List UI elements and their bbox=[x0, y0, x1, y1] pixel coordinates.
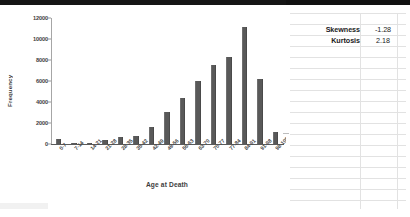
y-tick-mark bbox=[48, 39, 51, 40]
x-label-slot: 14-21 bbox=[82, 146, 97, 174]
x-label-slot: 7-14 bbox=[66, 146, 81, 174]
y-tick-label: 6000 bbox=[14, 78, 48, 84]
statistics-table: Skewness -1.28 Kurtosis 2.18 bbox=[286, 5, 410, 217]
table-row-line bbox=[290, 134, 406, 135]
table-row-line bbox=[290, 123, 406, 124]
y-tick-mark bbox=[48, 18, 51, 19]
table-row-value-skewness: -1.28 bbox=[366, 25, 400, 34]
table-row-line bbox=[290, 200, 406, 201]
bar bbox=[180, 98, 186, 144]
table-row-line bbox=[290, 13, 406, 14]
bar-slot bbox=[221, 18, 236, 144]
y-tick-mark bbox=[48, 144, 51, 145]
y-tick-label: 2000 bbox=[14, 120, 48, 126]
bar-slot bbox=[113, 18, 128, 144]
table-row-line bbox=[290, 57, 406, 58]
y-tick-mark bbox=[48, 102, 51, 103]
bar-slot bbox=[268, 18, 283, 144]
bar-slot bbox=[97, 18, 112, 144]
y-tick-mark bbox=[48, 81, 51, 82]
x-label-slot: 21-28 bbox=[97, 146, 112, 174]
bar bbox=[195, 81, 201, 144]
table-row-line bbox=[290, 46, 406, 47]
bar bbox=[149, 127, 155, 144]
bar-slot bbox=[128, 18, 143, 144]
x-label-slot: 98-105 bbox=[268, 146, 283, 174]
x-label-slot: 28-35 bbox=[113, 146, 128, 174]
bar bbox=[211, 65, 217, 144]
histogram-chart: Frequency 020004000600080001000012000 0-… bbox=[0, 5, 288, 217]
scan-artifact bbox=[0, 203, 48, 209]
table-row-line bbox=[290, 178, 406, 179]
bar bbox=[226, 57, 232, 144]
table-row-value-kurtosis: 2.18 bbox=[366, 36, 400, 45]
table-row-label-kurtosis: Kurtosis bbox=[298, 36, 360, 45]
y-tick-label: 10000 bbox=[14, 36, 48, 42]
x-label-slot: 42-49 bbox=[144, 146, 159, 174]
x-axis-title: Age at Death bbox=[51, 181, 283, 188]
bar-slot bbox=[159, 18, 174, 144]
x-axis-tick-labels: 0-77-1414-2121-2828-3535-4242-4949-5656-… bbox=[51, 146, 283, 174]
document-page: Frequency 020004000600080001000012000 0-… bbox=[0, 0, 410, 217]
x-label-slot: 49-56 bbox=[159, 146, 174, 174]
table-row-line bbox=[290, 112, 406, 113]
plot-area bbox=[51, 18, 283, 144]
bar-slot bbox=[175, 18, 190, 144]
x-label-slot: 0-7 bbox=[51, 146, 66, 174]
x-label-slot: 91-98 bbox=[252, 146, 267, 174]
y-tick-mark bbox=[48, 60, 51, 61]
bar-slot bbox=[190, 18, 205, 144]
bar bbox=[242, 27, 248, 144]
table-row-line bbox=[290, 101, 406, 102]
y-tick-label: 0 bbox=[14, 141, 48, 147]
table-row-line bbox=[290, 79, 406, 80]
table-row-label-skewness: Skewness bbox=[298, 25, 360, 34]
bar-slot bbox=[82, 18, 97, 144]
y-tick-label: 8000 bbox=[14, 57, 48, 63]
bar-slot bbox=[252, 18, 267, 144]
bar-slot bbox=[144, 18, 159, 144]
bar-slot bbox=[237, 18, 252, 144]
bar-slot bbox=[66, 18, 81, 144]
table-column-line bbox=[360, 13, 361, 209]
x-label-slot: 35-42 bbox=[128, 146, 143, 174]
x-label-slot: 70-77 bbox=[206, 146, 221, 174]
x-label-slot: 63-70 bbox=[190, 146, 205, 174]
bar bbox=[257, 79, 263, 144]
y-axis-tick-labels: 020004000600080001000012000 bbox=[14, 5, 48, 217]
y-tick-mark bbox=[48, 123, 51, 124]
bar-slot bbox=[51, 18, 66, 144]
bar bbox=[164, 112, 170, 144]
table-row-line bbox=[290, 167, 406, 168]
x-label-slot: 56-63 bbox=[175, 146, 190, 174]
table-row-line bbox=[290, 145, 406, 146]
y-tick-label: 4000 bbox=[14, 99, 48, 105]
bar-slot bbox=[206, 18, 221, 144]
table-row-line bbox=[290, 90, 406, 91]
table-row-line bbox=[290, 156, 406, 157]
table-row-line bbox=[290, 189, 406, 190]
x-label-slot: 77-84 bbox=[221, 146, 236, 174]
x-label-slot: 84-91 bbox=[237, 146, 252, 174]
bar-series bbox=[51, 18, 283, 144]
table-row-line bbox=[290, 68, 406, 69]
y-tick-label: 12000 bbox=[14, 15, 48, 21]
